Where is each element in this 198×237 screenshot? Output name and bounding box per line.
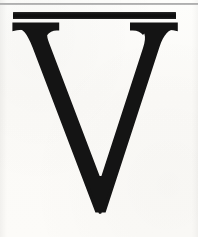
initial-letter-v xyxy=(0,0,198,237)
scanned-page: V Large black serif capital letter V ben… xyxy=(0,0,198,237)
